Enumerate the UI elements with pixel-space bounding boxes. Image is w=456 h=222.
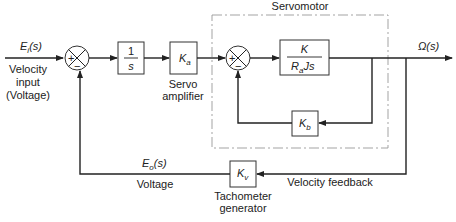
tachometer-label-2: generator: [219, 202, 266, 214]
velocity-input-label-2: input: [16, 76, 40, 88]
servo-amplifier-label-2: amplifier: [162, 90, 204, 102]
motor-transfer-block: K RaJs: [280, 40, 329, 75]
velocity-feedback-label: Velocity feedback: [287, 176, 373, 188]
voltage-label: Voltage: [137, 178, 174, 190]
block-diagram: Servomotor Ei(s) Velocity input (Voltage…: [0, 0, 456, 222]
tachometer-block: Kv: [230, 161, 256, 187]
servomotor-label: Servomotor: [272, 0, 329, 12]
svg-text:s: s: [128, 60, 134, 72]
svg-text:1: 1: [128, 45, 134, 57]
input-signal-label: Ei(s): [20, 40, 42, 55]
servo-amplifier-block: Ka: [170, 42, 197, 74]
inner-feedback-return: [238, 71, 292, 123]
svg-text:−: −: [235, 60, 241, 72]
velocity-feedback-path: [257, 58, 406, 174]
minus-sign: −: [74, 60, 80, 72]
feedback-signal-label: Eo(s): [142, 157, 167, 172]
velocity-input-label-3: (Voltage): [6, 89, 50, 101]
integrator-block: 1 s: [118, 42, 144, 74]
back-emf-block: Kb: [292, 111, 318, 136]
summing-junction-2: + −: [226, 46, 250, 72]
velocity-input-label-1: Velocity: [9, 63, 47, 75]
output-signal-label: Ω(s): [418, 40, 440, 52]
servo-amplifier-label-1: Servo: [169, 78, 198, 90]
svg-text:K: K: [301, 43, 309, 55]
tachometer-label-1: Tachometer: [214, 190, 272, 202]
summing-junction-1: + −: [65, 46, 89, 72]
